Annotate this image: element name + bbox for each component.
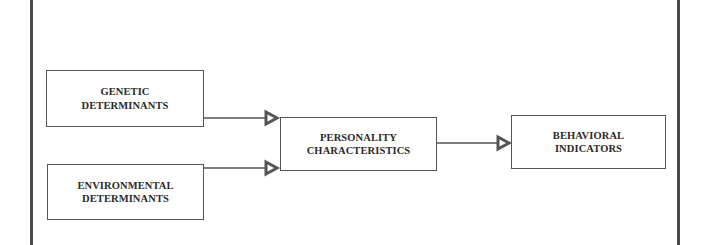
node-label: GENETIC DETERMINANTS xyxy=(82,85,169,112)
arrowhead-icon xyxy=(266,162,277,174)
node-personality-characteristics: PERSONALITY CHARACTERISTICS xyxy=(280,117,437,171)
node-label: PERSONALITY CHARACTERISTICS xyxy=(307,131,411,158)
node-behavioral-indicators: BEHAVIORAL INDICATORS xyxy=(511,115,666,169)
node-label: ENVIRONMENTAL DETERMINANTS xyxy=(77,179,173,206)
node-label: BEHAVIORAL INDICATORS xyxy=(553,129,624,156)
node-environmental-determinants: ENVIRONMENTAL DETERMINANTS xyxy=(47,164,204,220)
arrowhead-icon xyxy=(498,137,509,149)
arrowhead-icon xyxy=(266,112,277,124)
node-genetic-determinants: GENETIC DETERMINANTS xyxy=(46,70,204,127)
